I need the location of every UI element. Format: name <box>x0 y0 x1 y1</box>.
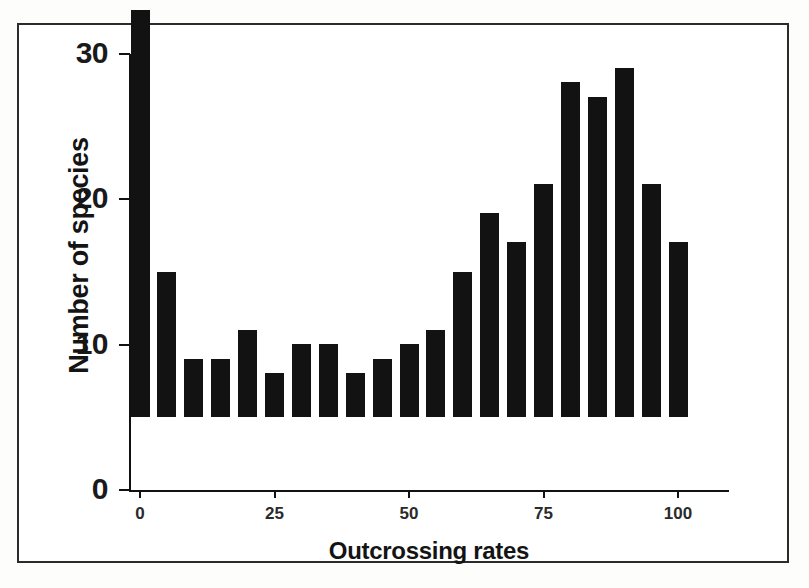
bar <box>157 272 176 418</box>
y-axis-title: Number of species <box>64 46 95 466</box>
bar-series <box>19 25 791 492</box>
bar <box>669 242 688 417</box>
bar <box>507 242 526 417</box>
bar <box>561 82 580 417</box>
bar <box>346 373 365 417</box>
bar <box>292 344 311 417</box>
bar <box>319 344 338 417</box>
bar <box>400 344 419 417</box>
bar <box>615 68 634 417</box>
bar <box>211 359 230 417</box>
bar <box>480 213 499 417</box>
x-axis-tick-label: 75 <box>514 505 574 522</box>
bar <box>238 330 257 417</box>
bar <box>453 272 472 418</box>
bar <box>265 373 284 417</box>
bar <box>534 184 553 417</box>
bar <box>373 359 392 417</box>
plot-area: 0102030 0255075100 Number of species Out… <box>19 25 791 565</box>
x-axis-tick-label: 100 <box>648 505 708 522</box>
bar <box>426 330 445 417</box>
x-axis-tick-label: 0 <box>110 505 170 522</box>
scanned-page: 0102030 0255075100 Number of species Out… <box>0 0 809 588</box>
bar <box>131 10 150 417</box>
x-axis-title: Outcrossing rates <box>129 537 729 565</box>
x-axis-tick-label: 25 <box>245 505 305 522</box>
x-axis-tick-label: 50 <box>379 505 439 522</box>
bar <box>588 97 607 417</box>
bar <box>642 184 661 417</box>
figure-frame: 0102030 0255075100 Number of species Out… <box>17 23 789 563</box>
bar <box>184 359 203 417</box>
